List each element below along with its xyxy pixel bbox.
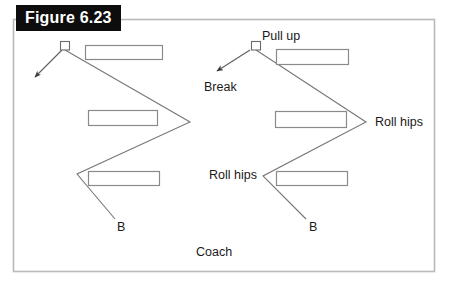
label-coach: Coach <box>196 245 232 259</box>
start-square-left <box>61 42 70 51</box>
label-player-b-right: B <box>309 220 317 234</box>
break-arrow-right <box>217 50 250 71</box>
start-square-right <box>252 42 261 51</box>
cone-rect-left-bottom <box>89 172 160 186</box>
cone-rect-left-top <box>86 46 163 60</box>
break-arrow-left <box>35 50 62 77</box>
cone-rect-right-middle <box>276 112 347 128</box>
cone-rect-right-bottom <box>277 172 348 186</box>
label-roll-hips-right: Roll hips <box>375 115 423 129</box>
figure-container: Figure 6.23 Pull up Break Roll hips Roll… <box>0 0 449 283</box>
label-roll-hips-left: Roll hips <box>209 168 257 182</box>
cone-rect-right-top <box>277 50 349 65</box>
label-player-b-left: B <box>117 220 125 234</box>
label-pull-up: Pull up <box>262 29 300 43</box>
zigzag-path-left <box>65 50 190 219</box>
zigzag-path-right <box>256 50 366 219</box>
label-break: Break <box>204 80 237 94</box>
cone-rect-left-middle <box>89 111 158 126</box>
diagram-canvas <box>0 0 449 283</box>
figure-number-label: Figure 6.23 <box>17 6 120 30</box>
